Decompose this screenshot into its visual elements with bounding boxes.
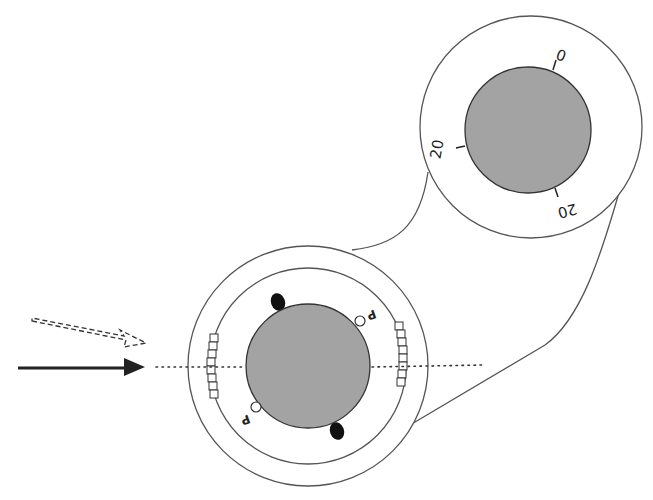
eye-view: P P — [188, 246, 428, 486]
solid-arrow — [18, 358, 145, 376]
p-marker-lower-left — [251, 402, 261, 412]
scale-label-left: 20 — [427, 138, 448, 160]
p-marker-upper-right — [355, 316, 365, 326]
eye-lens — [246, 304, 370, 428]
magnified-lens — [465, 67, 591, 193]
dashed-arrow — [32, 318, 146, 347]
toric-lens-diagram: 0 20 20 — [0, 0, 653, 500]
magnified-view: 0 20 20 — [420, 16, 642, 238]
callout-upper-line — [352, 172, 428, 250]
